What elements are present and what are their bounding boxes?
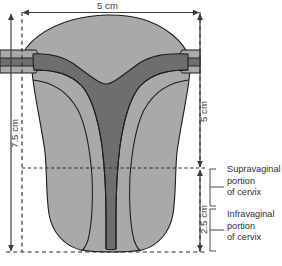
callout-supravaginal-line-3: of cervix [227,187,281,199]
callout-supravaginal-line-2: portion [227,176,281,188]
callout-supravaginal-portion: Supravaginal portion of cervix [227,164,281,199]
callout-infravaginal-line-2: portion [227,221,275,233]
callout-infravaginal-line-3: of cervix [227,232,275,244]
dimension-label-cervix-height: 2.5 cm [198,205,209,234]
callout-brackets-group [210,169,224,251]
callout-supravaginal-line-1: Supravaginal [227,164,281,176]
callout-infravaginal-line-1: Infravaginal [227,209,275,221]
figure-canvas: 5 cm 7.5 cm 5 cm 2.5 cm Supravaginal por… [0,0,282,266]
dimension-label-overall-height: 7.5 cm [9,119,20,148]
callout-infravaginal-portion: Infravaginal portion of cervix [227,209,275,244]
dimension-label-width: 5 cm [97,0,118,11]
dimension-label-body-height: 5 cm [198,101,209,122]
